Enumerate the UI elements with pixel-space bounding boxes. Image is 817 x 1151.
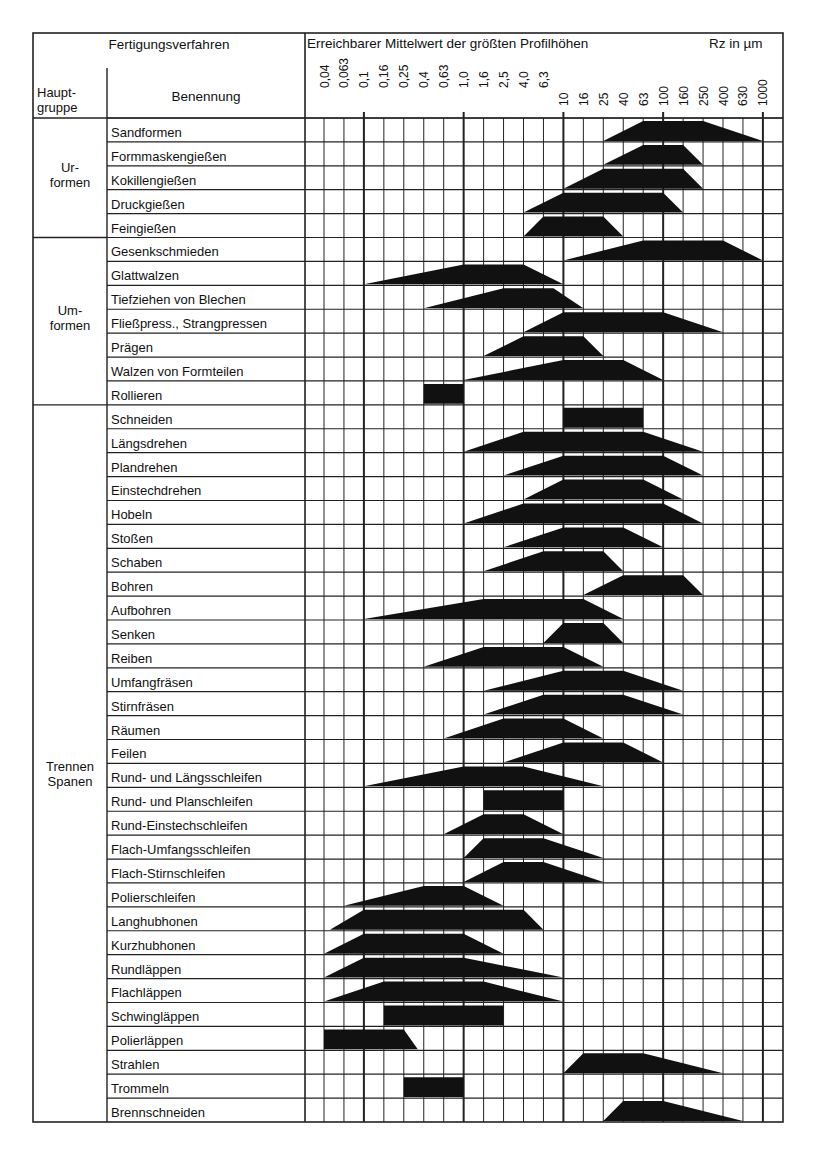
row-label: Formmaskengießen [111,149,227,164]
chart-title: Erreichbarer Mittelwert der größten Prof… [307,36,588,51]
row-label: Feingießen [111,221,176,236]
row-label: Prägen [111,340,153,355]
tick-label: 2,5 [497,71,511,88]
row-label: Rollieren [111,388,162,403]
row-label: Stoßen [111,531,153,546]
row-label: Längsdrehen [111,436,187,451]
header-hauptgruppe: Haupt- [37,85,76,100]
range-bar [524,193,684,213]
row-label: Hobeln [111,507,152,522]
range-bar [603,1101,743,1121]
range-bar [484,695,683,715]
range-bar [563,408,643,428]
tick-label: 0,63 [437,64,451,88]
tick-label: 25 [597,92,611,106]
range-bar [464,432,703,452]
row-label: Schwingläppen [111,1009,199,1024]
row-label: Feilen [111,746,146,761]
range-bar [524,480,684,500]
group-label: formen [50,175,90,190]
range-bar [324,958,563,978]
row-label: Fließpress., Strangpressen [111,316,267,331]
range-bar [324,934,504,954]
range-bar [324,982,563,1002]
range-bar [504,456,704,476]
row-label: Kokillengießen [111,173,196,188]
row-label: Reiben [111,651,152,666]
tick-label: 10 [557,92,571,106]
row-label: Schneiden [111,412,172,427]
range-bar [563,169,703,189]
range-bar [464,838,604,858]
range-bar [344,886,504,906]
tick-label: 40 [617,92,631,106]
range-bar [543,623,623,643]
range-bar [484,551,624,571]
range-bar [364,264,564,284]
roughness-chart: Fertigungsverfahren Benennung Erreichbar… [0,0,817,1151]
row-label: Walzen von Formteilen [111,364,243,379]
tick-label: 160 [677,86,691,106]
range-bar [583,575,703,595]
group-label: formen [50,318,90,333]
row-label: Plandrehen [111,460,178,475]
row-label: Strahlen [111,1057,159,1072]
tick-label: 1,6 [477,71,491,88]
row-label: Druckgießen [111,197,185,212]
header-fertigungsverfahren: Fertigungsverfahren [109,37,230,52]
tick-label: 1000 [756,79,770,106]
range-bar [324,1029,418,1049]
tick-label: 4,0 [517,71,531,88]
range-bar [464,360,664,380]
range-bar [464,503,703,523]
row-label: Rund- und Planschleifen [111,794,253,809]
tick-label: 16 [577,92,591,106]
range-bar [504,527,664,547]
group-label: Trennen [46,759,94,774]
unit-label: Rz in µm [709,36,763,51]
row-label: Polierläppen [111,1033,183,1048]
tick-label: 1,0 [457,71,471,88]
row-label: Bohren [111,579,153,594]
tick-label: 0,4 [417,71,431,88]
row-label: Rund-Einstechschleifen [111,818,248,833]
tick-label: 6,3 [537,71,551,88]
header-hauptgruppe: gruppe [37,100,77,115]
group-label: Ur- [61,160,79,175]
range-bar [504,743,664,763]
row-label: Umfangfräsen [111,675,193,690]
row-label: Polierschleifen [111,890,196,905]
row-label: Flach-Umfangsschleifen [111,842,250,857]
range-bar [603,121,763,141]
tick-label: 250 [697,86,711,106]
range-bar [404,1077,464,1097]
row-label: Flach-Stirnschleifen [111,866,225,881]
row-label: Brennschneiden [111,1105,205,1120]
tick-label: 63 [637,92,651,106]
group-label: Spanen [48,774,93,789]
row-label: Räumen [111,723,160,738]
tick-label: 400 [717,86,731,106]
row-label: Tiefziehen von Blechen [111,292,246,307]
range-bar [444,719,604,739]
range-bar [384,1005,504,1025]
range-bar [484,790,564,810]
range-bar [424,647,604,667]
range-bar [484,336,604,356]
header-benennung: Benennung [171,89,240,104]
range-bar [563,241,763,261]
tick-label: 100 [657,86,671,106]
tick-label: 0,1 [357,71,371,88]
row-label: Trommeln [111,1081,169,1096]
row-label: Aufbohren [111,603,171,618]
tick-label: 0,16 [377,64,391,88]
row-label: Gesenkschmieden [111,244,219,259]
range-bar [424,288,584,308]
tick-label: 0,04 [318,64,332,88]
range-bar [484,671,683,691]
range-bar [563,1053,723,1073]
row-label: Stirnfräsen [111,699,174,714]
row-label: Langhubhonen [111,914,198,929]
row-label: Senken [111,627,155,642]
tick-label: 630 [736,86,750,106]
